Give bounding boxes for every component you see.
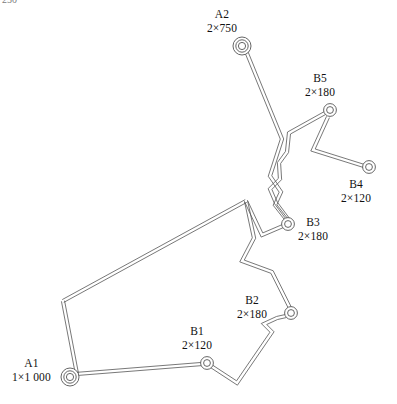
node-label-a1: A11×1 000: [12, 357, 51, 384]
node-rating-b1: 2×120: [182, 339, 212, 353]
route-b1-b2: [210, 314, 286, 385]
node-rating-a1: 1×1 000: [12, 371, 51, 385]
node-label-b4: B42×120: [341, 178, 371, 205]
node-rating-a2: 2×750: [207, 22, 237, 36]
route-b5-b3-rail-2: [268, 112, 324, 220]
node-label-a2: A22×750: [207, 8, 237, 35]
route-b2-apex: [240, 201, 292, 309]
substation-double-ring-icon-ring-2: [366, 164, 373, 171]
route-a2-b3-rail-1: [247, 50, 287, 218]
node-name-b5: B5: [305, 72, 335, 86]
node-symbol-a1[interactable]: [61, 368, 79, 386]
node-label-b2: B22×180: [237, 294, 267, 321]
node-symbol-b3[interactable]: [282, 218, 295, 231]
route-b5-b4: [311, 116, 365, 167]
route-apex-corner: [62, 200, 247, 303]
substation-double-ring-icon-ring-2: [204, 360, 211, 367]
node-symbol-b4[interactable]: [363, 161, 376, 174]
route-a1-b1: [76, 362, 202, 375]
node-symbol-b1[interactable]: [201, 357, 214, 370]
route-apex-corner-rail-1: [64, 202, 247, 302]
node-label-b1: B12×120: [182, 325, 212, 352]
substation-double-ring-icon-ring-2: [285, 221, 292, 228]
node-name-a1: A1: [12, 357, 51, 371]
substation-triple-ring-icon-ring-3: [66, 373, 73, 380]
substation-double-ring-icon-ring-2: [288, 310, 295, 317]
route-a2-b3: [245, 50, 288, 220]
route-b5-b3: [268, 112, 326, 220]
node-rating-b3: 2×180: [298, 230, 328, 244]
route-a2-b3-rail-2: [245, 52, 285, 220]
node-symbol-a2[interactable]: [233, 37, 251, 55]
route-b1-b2-rail-2: [210, 318, 286, 386]
node-name-b1: B1: [182, 325, 212, 339]
route-b1-b2-rail-1: [212, 314, 286, 380]
route-corner-a1-rail-1: [65, 301, 79, 374]
node-rating-b4: 2×120: [341, 192, 371, 206]
node-label-b5: B52×180: [305, 72, 335, 99]
node-symbol-b5[interactable]: [324, 104, 337, 117]
node-symbol-b2[interactable]: [285, 307, 298, 320]
substation-triple-ring-icon-ring-3: [238, 42, 245, 49]
route-apex-corner-rail-2: [62, 200, 245, 300]
node-rating-b5: 2×180: [305, 86, 335, 100]
node-name-b2: B2: [237, 294, 267, 308]
node-name-b4: B4: [341, 178, 371, 192]
node-name-b3: B3: [298, 216, 328, 230]
cable-route-diagram: 250 A22×750B52×180B42×120B32×180B22×180B…: [0, 0, 397, 404]
node-rating-b2: 2×180: [237, 308, 267, 322]
node-name-a2: A2: [207, 8, 237, 22]
substation-double-ring-icon-ring-2: [327, 107, 334, 114]
node-label-b3: B32×180: [298, 216, 328, 243]
route-corner-a1-rail-2: [61, 301, 75, 374]
route-corner-a1: [61, 301, 78, 375]
